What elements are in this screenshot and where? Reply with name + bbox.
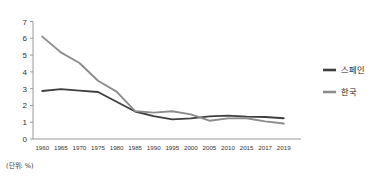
x-tick-label: 1975 [91,144,105,151]
y-tick-label: 3 [23,85,28,94]
y-tick-label: 4 [23,68,28,77]
series-line-2 [42,37,283,124]
line-chart-figure: 0123456719601965197019751980198519901995… [0,0,387,183]
y-tick-label: 2 [23,101,28,110]
x-tick-label: 2017 [258,144,272,151]
chart-plot-area: 0123456719601965197019751980198519901995… [0,0,387,183]
y-tick-label: 1 [23,118,28,127]
x-tick-label: 1990 [147,144,161,151]
x-tick-label: 2010 [221,144,235,151]
x-tick-label: 1985 [128,144,142,151]
x-tick-label: 2019 [277,144,291,151]
x-tick-label: 2015 [240,144,254,151]
y-tick-label: 5 [23,51,28,60]
x-tick-label: 2005 [203,144,217,151]
x-tick-label: 1980 [110,144,124,151]
unit-note: (단위: %) [6,160,34,170]
chart-svg: 0123456719601965197019751980198519901995… [0,0,387,183]
legend-label-2: 한국 [341,87,357,97]
legend-label-1: 스페인 [341,65,365,75]
x-tick-label: 1960 [35,144,49,151]
series-line-1 [42,89,283,119]
x-tick-label: 1995 [165,144,179,151]
y-tick-label: 0 [23,135,28,144]
y-tick-label: 6 [23,34,28,43]
x-tick-label: 1970 [73,144,87,151]
x-tick-label: 2000 [184,144,198,151]
x-tick-label: 1965 [54,144,68,151]
y-tick-label: 7 [23,18,28,27]
